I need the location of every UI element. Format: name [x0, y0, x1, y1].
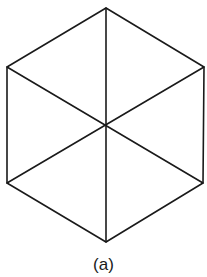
figure-caption: (a)	[0, 255, 207, 275]
hexagon-diagram	[0, 0, 207, 277]
